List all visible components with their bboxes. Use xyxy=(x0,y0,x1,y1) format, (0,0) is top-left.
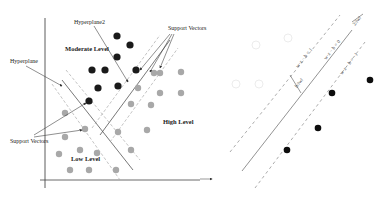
decision-boundary-line xyxy=(242,30,352,171)
width-label: 2/‖w‖ xyxy=(352,15,363,27)
hyperplane-pointer xyxy=(26,66,62,86)
sv-bottom-pointer-2 xyxy=(34,130,82,137)
hyperplane2-label: Hyperplane2 xyxy=(74,19,105,25)
sv-pointer-1 xyxy=(140,34,170,70)
sv-bottom-pointer-1 xyxy=(34,103,86,135)
lower-equation: w·x − b = −1 xyxy=(339,51,359,75)
moderate-level-points xyxy=(85,32,139,104)
right-panel: w·x − b = 1 w·x − b = 0 w·x − b = −1 b/‖… xyxy=(200,14,373,188)
margin-label: b/‖w‖ xyxy=(294,77,305,89)
hyperplane2-pointer xyxy=(94,26,128,82)
support-vectors-bottom-label: Support Vectors xyxy=(10,138,49,144)
upper-equation: w·x − b = 1 xyxy=(295,47,314,69)
high-level-label: High Level xyxy=(163,118,194,125)
moderate-level-label: Moderate Level xyxy=(65,45,109,52)
hyperplane-label: Hyperplane xyxy=(10,58,38,64)
support-vectors-top-label: Support Vectors xyxy=(168,25,207,31)
hyperplane-margin-upper xyxy=(66,70,140,160)
low-level-label: Low Level xyxy=(71,155,100,162)
faint-points xyxy=(232,34,292,88)
left-panel: Hyperplane2 Moderate Level Support Vecto… xyxy=(10,18,207,188)
middle-equation: w·x − b = 0 xyxy=(323,39,342,61)
hyperplane2-margin-lower xyxy=(110,48,178,142)
svm-diagram: Hyperplane2 Moderate Level Support Vecto… xyxy=(0,0,385,197)
